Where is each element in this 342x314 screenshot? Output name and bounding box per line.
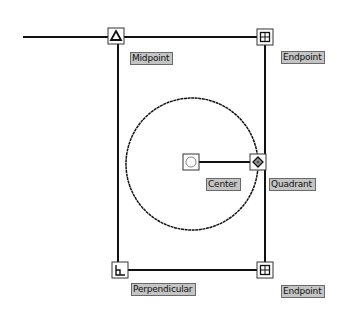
endpoint-top-label: Endpoint	[281, 51, 325, 64]
center-label: Center	[206, 178, 241, 191]
perpendicular-label: Perpendicular	[131, 283, 196, 296]
midpoint-label: Midpoint	[130, 52, 173, 65]
endpoint-top-marker	[257, 29, 273, 45]
perpendicular-marker	[112, 262, 128, 278]
quadrant-marker	[250, 154, 266, 170]
midpoint-marker	[108, 28, 124, 44]
center-marker	[183, 154, 199, 170]
snap-diagram-canvas	[0, 0, 342, 314]
endpoint-bottom-label: Endpoint	[281, 285, 325, 298]
quadrant-label: Quadrant	[269, 178, 316, 191]
endpoint-bottom-marker	[257, 262, 273, 278]
